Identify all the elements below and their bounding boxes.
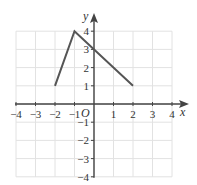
x-tick-label: −4 (10, 108, 22, 120)
y-tick-label: −3 (77, 153, 89, 165)
x-tick-label: −2 (49, 108, 61, 120)
x-tick-label: 4 (169, 108, 175, 120)
y-tick-label: 2 (84, 62, 90, 74)
y-tick-label: 4 (84, 25, 90, 37)
x-tick-label: 3 (150, 108, 156, 120)
y-axis-label: y (82, 9, 89, 23)
y-tick-label: −2 (77, 134, 89, 146)
origin-label: O (81, 106, 90, 120)
x-tick-label: −3 (30, 108, 42, 120)
coordinate-plot: −4−3−2−112344321−1−2−3−4 x y O (0, 0, 197, 185)
x-tick-label: 1 (111, 108, 117, 120)
y-tick-label: 1 (84, 80, 90, 92)
x-axis-label: x (179, 105, 186, 119)
x-tick-label: 2 (130, 108, 136, 120)
y-tick-label: −4 (77, 171, 89, 183)
axes (15, 13, 189, 178)
